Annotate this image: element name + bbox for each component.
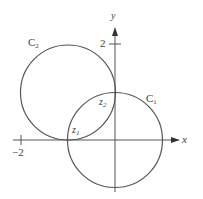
z2-label: z2 [99, 97, 106, 109]
c1-label-sub: 1 [153, 98, 157, 106]
x-tick-label: −2 [12, 147, 24, 158]
x-axis-label: x [182, 134, 187, 145]
circle-c2 [21, 45, 116, 140]
z1-label: z1 [72, 125, 79, 137]
c2-label-sub: 2 [35, 42, 39, 50]
c1-label: C1 [146, 93, 157, 106]
z1-label-sub: 1 [76, 129, 80, 137]
diagram-figure: y x 2 −2 C2 C1 z2 z1 [0, 0, 203, 199]
y-axis-label: y [111, 11, 115, 21]
y-axis-arrow-icon [112, 27, 118, 36]
x-axis-arrow-icon [171, 137, 180, 143]
c2-label: C2 [28, 37, 39, 50]
z2-label-sub: 2 [103, 101, 107, 109]
y-tick-label: 2 [100, 38, 106, 49]
